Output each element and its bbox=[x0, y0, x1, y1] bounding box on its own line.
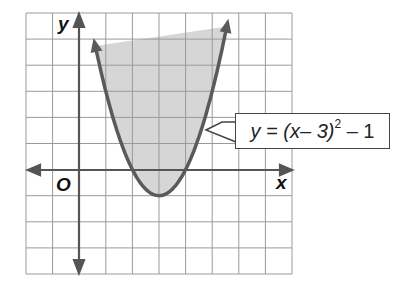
y-axis-up-arrow-icon bbox=[74, 14, 84, 27]
x-axis-label: x bbox=[276, 172, 287, 194]
equation-exponent: 2 bbox=[334, 117, 341, 131]
curve-right-arrow-icon bbox=[220, 19, 232, 34]
equation-callout: y = (x– 3)2 – 1 bbox=[235, 113, 390, 149]
equation-text: y = (x– 3)2 – 1 bbox=[251, 119, 375, 143]
y-axis-down-arrow-icon bbox=[74, 260, 84, 273]
y-axis-label: y bbox=[58, 13, 69, 35]
equation-tail: – 1 bbox=[341, 120, 374, 142]
equation-main: y = (x– 3) bbox=[251, 120, 335, 142]
origin-label: O bbox=[56, 174, 71, 196]
x-axis-left-arrow-icon bbox=[28, 165, 40, 175]
callout-pointer bbox=[206, 122, 236, 142]
